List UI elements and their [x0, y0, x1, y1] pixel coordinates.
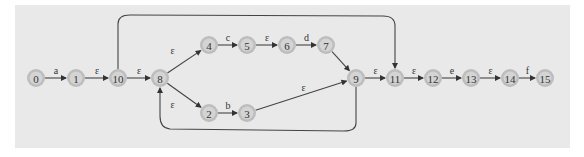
- state-label: 8: [157, 73, 163, 85]
- state-label: 15: [540, 73, 552, 85]
- state-node-10: 10: [109, 69, 127, 87]
- edge-label-1-10: ε: [95, 65, 99, 76]
- state-label: 14: [505, 73, 517, 85]
- state-node-13: 13: [462, 69, 480, 87]
- edge-label-6-7: d: [304, 32, 309, 43]
- state-node-12: 12: [424, 69, 442, 87]
- state-node-0: 0: [27, 69, 45, 87]
- edge-label-8-4: ε: [170, 45, 174, 56]
- edge-10-11: [118, 15, 395, 69]
- state-node-4: 4: [200, 36, 218, 54]
- edge-label-9-11: ε: [373, 65, 377, 76]
- edge-label-11-12: ε: [412, 65, 416, 76]
- edge-label-3-9: ε: [301, 82, 305, 93]
- state-label: 7: [323, 40, 329, 52]
- edge-label-13-14: ε: [488, 65, 492, 76]
- state-label: 11: [390, 73, 401, 85]
- edge-label-8-2: ε: [170, 99, 174, 110]
- edge-label-2-3: b: [226, 100, 231, 111]
- edge-7-9: [332, 52, 349, 71]
- state-node-11: 11: [386, 69, 404, 87]
- state-node-14: 14: [501, 69, 519, 87]
- edge-label-4-5: c: [226, 32, 231, 43]
- state-node-2: 2: [200, 104, 218, 122]
- state-node-8: 8: [151, 69, 169, 87]
- state-label: 9: [353, 73, 359, 85]
- state-label: 3: [244, 108, 250, 120]
- nodes-layer: 0110845672391112131415: [27, 36, 554, 122]
- state-label: 13: [466, 73, 478, 85]
- state-node-1: 1: [67, 69, 85, 87]
- state-label: 5: [244, 40, 250, 52]
- state-label: 0: [33, 73, 39, 85]
- state-label: 1: [73, 73, 79, 85]
- state-node-9: 9: [347, 69, 365, 87]
- edge-label-12-13: e: [450, 65, 455, 76]
- edge-label-10-8: ε: [137, 65, 141, 76]
- edge-label-14-15: f: [526, 65, 530, 76]
- state-node-7: 7: [317, 36, 335, 54]
- edge-label-0-1: a: [54, 65, 59, 76]
- nfa-diagram: aεεεεcεdbεεεeεf 0110845672391112131415: [0, 0, 584, 157]
- state-label: 4: [206, 40, 212, 52]
- state-node-3: 3: [238, 104, 256, 122]
- edge-label-5-6: ε: [265, 32, 269, 43]
- state-label: 10: [113, 73, 125, 85]
- state-label: 12: [428, 73, 439, 85]
- state-node-5: 5: [238, 36, 256, 54]
- state-node-6: 6: [278, 36, 296, 54]
- state-node-15: 15: [536, 69, 554, 87]
- state-label: 2: [206, 108, 212, 120]
- state-label: 6: [284, 40, 290, 52]
